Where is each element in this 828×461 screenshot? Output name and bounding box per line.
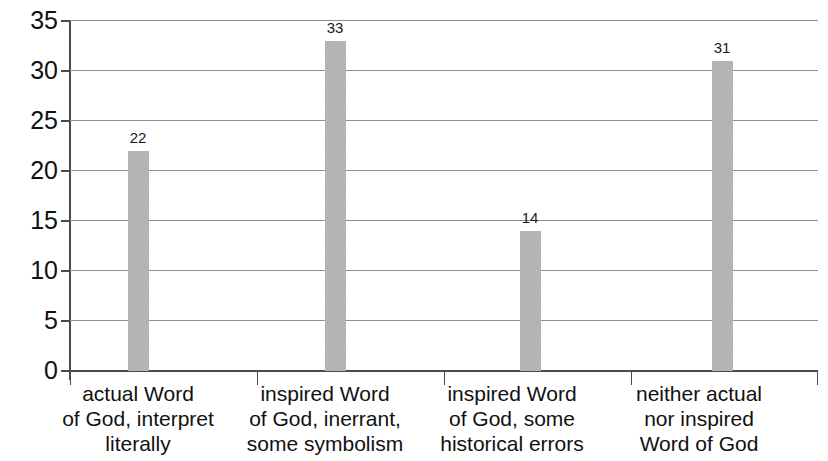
category-label-line: neither actual xyxy=(599,381,799,406)
category-label-line: some symbolism xyxy=(225,431,425,456)
bar-value-label: 14 xyxy=(500,210,560,225)
y-tick-label-0: 0 xyxy=(0,358,58,383)
y-tick-label-15: 15 xyxy=(0,208,58,233)
category-label-line: of God, some xyxy=(412,406,612,431)
y-tick-label-35: 35 xyxy=(0,8,58,33)
category-label-0: actual Word of God, interpret literally xyxy=(38,381,238,456)
category-label-line: inspired Word xyxy=(225,381,425,406)
y-tick-label-25: 25 xyxy=(0,108,58,133)
plot-area xyxy=(70,20,818,371)
category-label-line: Word of God xyxy=(599,431,799,456)
category-label-line: of God, inerrant, xyxy=(225,406,425,431)
category-label-1: inspired Word of God, inerrant, some sym… xyxy=(225,381,425,456)
gridline-10 xyxy=(70,270,818,271)
gridline-35 xyxy=(70,20,818,21)
y-tick-label-20: 20 xyxy=(0,158,58,183)
bar-value-label: 31 xyxy=(692,40,752,55)
gridline-20 xyxy=(70,170,818,171)
gridline-5 xyxy=(70,320,818,321)
category-label-line: historical errors xyxy=(412,431,612,456)
gridline-25 xyxy=(70,120,818,121)
y-tick-label-30: 30 xyxy=(0,58,58,83)
category-separator xyxy=(817,372,818,385)
gridline-15 xyxy=(70,220,818,221)
category-label-2: inspired Word of God, some historical er… xyxy=(412,381,612,456)
bar-value-label: 33 xyxy=(305,20,365,35)
bar-value-label: 22 xyxy=(108,130,168,145)
category-label-line: actual Word xyxy=(38,381,238,406)
bar-chart: 35 30 25 20 15 10 5 0 22 33 14 31 actu xyxy=(0,0,828,461)
category-label-3: neither actual nor inspired Word of God xyxy=(599,381,799,456)
gridline-30 xyxy=(70,70,818,71)
y-tick-label-5: 5 xyxy=(0,308,58,333)
y-tick-label-10: 10 xyxy=(0,258,58,283)
category-label-line: of God, interpret xyxy=(38,406,238,431)
bar-neither-actual-nor-inspired xyxy=(712,61,733,371)
bar-inspired-inerrant xyxy=(325,41,346,371)
category-label-line: nor inspired xyxy=(599,406,799,431)
bar-actual-word-of-god xyxy=(128,151,149,371)
category-label-line: literally xyxy=(38,431,238,456)
bar-inspired-historical-errors xyxy=(520,231,541,371)
category-label-line: inspired Word xyxy=(412,381,612,406)
